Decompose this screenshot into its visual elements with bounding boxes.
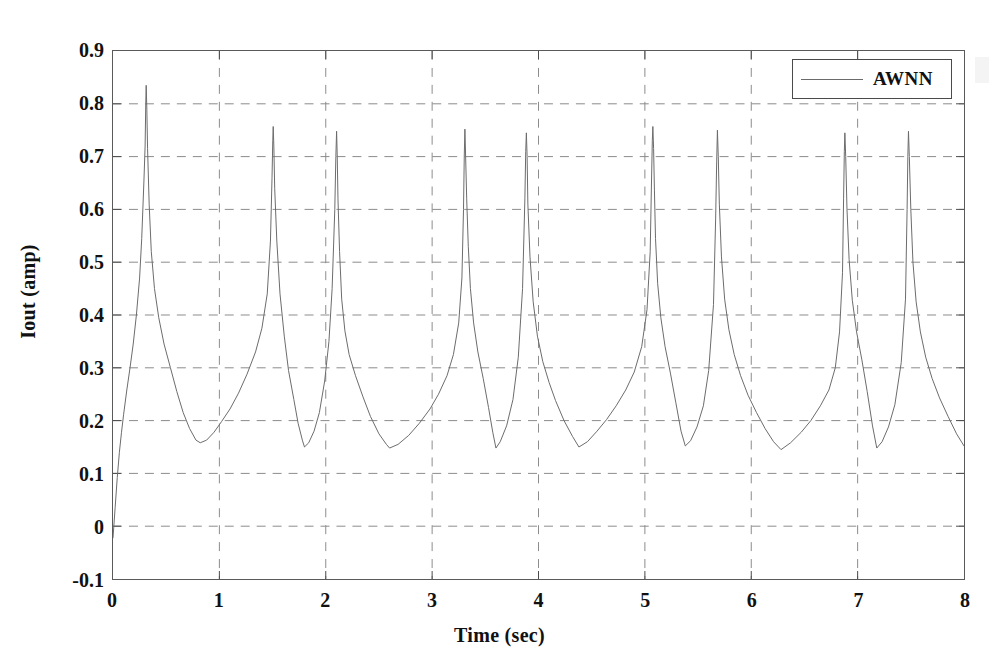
x-tick-label: 5 xyxy=(615,590,675,610)
x-tick-label: 4 xyxy=(509,590,569,610)
legend-label-awnn: AWNN xyxy=(873,68,933,90)
plot-svg xyxy=(113,51,964,579)
x-tick-label: 8 xyxy=(935,590,995,610)
x-tick-label: 6 xyxy=(722,590,782,610)
scan-artifact xyxy=(975,57,989,83)
x-tick-label: 3 xyxy=(402,590,462,610)
chart-page: -0.100.10.20.30.40.50.60.70.80.9 0123456… xyxy=(0,0,999,664)
y-axis-title: Iout (amp) xyxy=(17,192,40,392)
grid-lines xyxy=(113,51,964,579)
legend: AWNN xyxy=(792,59,952,99)
x-tick-label: 2 xyxy=(295,590,355,610)
x-tick-label: 0 xyxy=(82,590,142,610)
x-tick-label: 7 xyxy=(828,590,888,610)
plot-area xyxy=(112,50,965,580)
x-tick-label: 1 xyxy=(189,590,249,610)
legend-line-sample-awnn xyxy=(801,79,863,80)
x-axis-title: Time (sec) xyxy=(0,624,999,647)
